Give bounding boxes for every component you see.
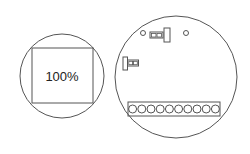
left-view: 100% <box>20 34 104 118</box>
pad-icon <box>129 61 133 64</box>
terminal-strip-frame <box>128 102 220 116</box>
tab-icon <box>123 57 128 70</box>
outer-circle-right <box>115 16 237 138</box>
terminal-icon <box>202 105 210 113</box>
right-view <box>115 16 237 138</box>
percentage-label: 100% <box>45 69 79 84</box>
pad-icon <box>152 34 157 38</box>
terminal-icon <box>165 105 173 113</box>
terminal-strip <box>128 102 220 116</box>
terminal-icon <box>156 105 164 113</box>
mounting-hole-icon <box>184 31 189 36</box>
terminal-icon <box>211 105 219 113</box>
left-connector <box>123 57 139 70</box>
top-connector <box>150 28 170 42</box>
terminal-icon <box>147 105 155 113</box>
mounting-hole-icon <box>141 31 146 36</box>
terminal-icon <box>193 105 201 113</box>
terminal-icon <box>175 105 183 113</box>
tab-icon <box>164 28 170 42</box>
terminal-icon <box>184 105 192 113</box>
pad-icon <box>157 34 162 38</box>
pad-icon <box>134 61 138 64</box>
terminal-icon <box>129 105 137 113</box>
terminal-icon <box>138 105 146 113</box>
diagram-canvas: 100% <box>0 0 250 154</box>
